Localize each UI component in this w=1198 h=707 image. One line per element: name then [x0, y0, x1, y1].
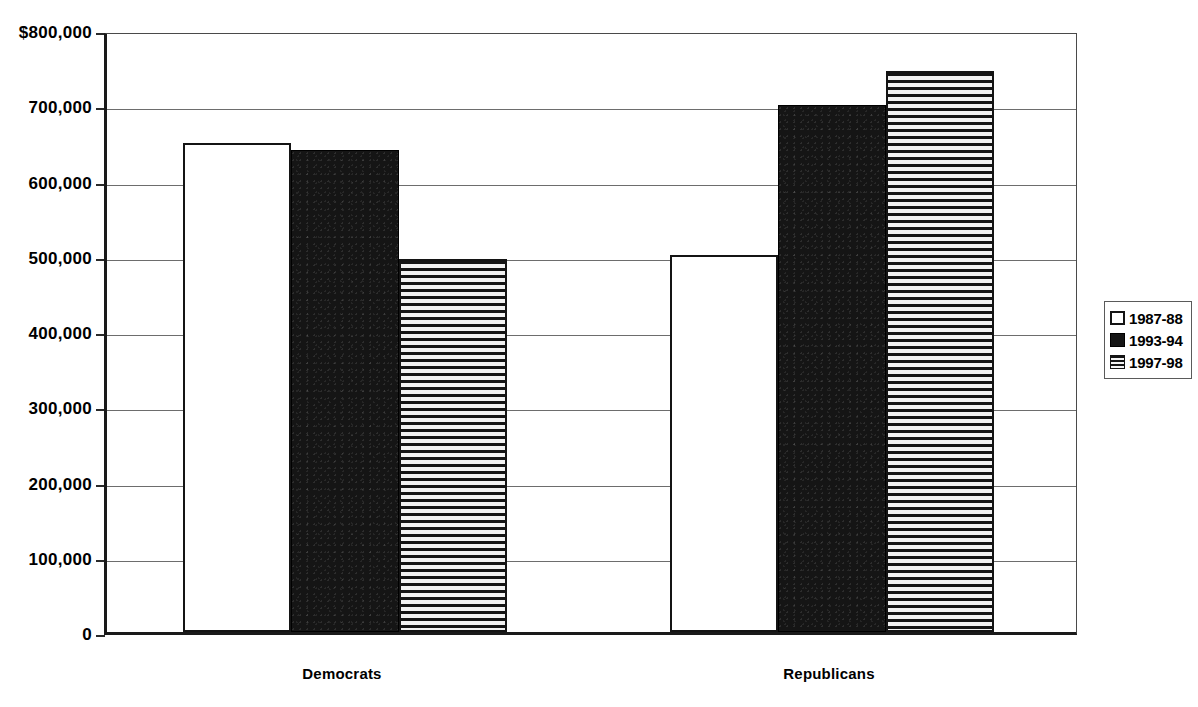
y-axis-tick-mark: [96, 635, 105, 637]
y-axis-tick-label: 400,000: [28, 324, 92, 344]
y-axis-tick-label: 300,000: [28, 399, 92, 419]
plot-area: [104, 33, 1077, 635]
bar-republicans-1997-98: [886, 71, 994, 632]
y-axis-tick-label: 100,000: [28, 550, 92, 570]
legend-swatch-icon: [1110, 311, 1125, 325]
y-axis-tick-label: 600,000: [28, 174, 92, 194]
y-axis-tick-label: 500,000: [28, 249, 92, 269]
x-axis-label-republicans: Republicans: [783, 665, 874, 682]
bar-democrats-1987-88: [183, 143, 291, 632]
legend-item-1997-98[interactable]: 1997-98: [1110, 351, 1187, 373]
legend-item-label: 1993-94: [1129, 332, 1183, 349]
legend-item-label: 1987-88: [1129, 310, 1183, 327]
bar-republicans-1987-88: [670, 255, 778, 632]
legend-swatch-icon: [1110, 355, 1125, 369]
legend-item-1993-94[interactable]: 1993-94: [1110, 329, 1187, 351]
y-axis-tick-label: 700,000: [28, 98, 92, 118]
bar-democrats-1997-98: [399, 259, 507, 632]
legend: 1987-881993-941997-98: [1104, 301, 1192, 379]
legend-item-1987-88[interactable]: 1987-88: [1110, 307, 1187, 329]
y-axis-tick-label: $800,000: [19, 23, 92, 43]
x-axis-label-democrats: Democrats: [302, 665, 381, 682]
legend-entries: 1987-881993-941997-98: [1110, 307, 1187, 373]
bar-chart: 0100,000200,000300,000400,000500,000600,…: [0, 0, 1198, 707]
bar-republicans-1993-94: [778, 105, 886, 632]
bar-democrats-1993-94: [291, 150, 399, 632]
legend-swatch-icon: [1110, 333, 1125, 347]
y-axis-tick-label: 200,000: [28, 475, 92, 495]
legend-item-label: 1997-98: [1129, 354, 1183, 371]
y-axis-tick-label: 0: [82, 625, 92, 645]
